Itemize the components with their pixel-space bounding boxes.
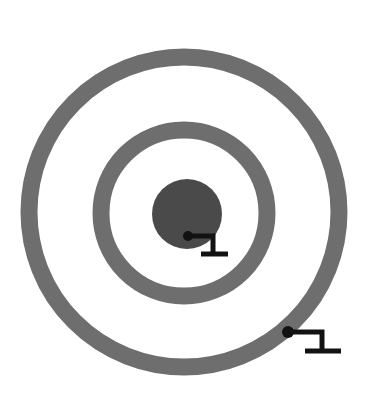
concentric-circle-diagram <box>0 0 366 407</box>
inner-disc-callout-anchor-dot[interactable] <box>183 231 193 241</box>
outer-ring-callout-anchor-dot[interactable] <box>282 326 294 338</box>
figure-root <box>0 0 366 407</box>
